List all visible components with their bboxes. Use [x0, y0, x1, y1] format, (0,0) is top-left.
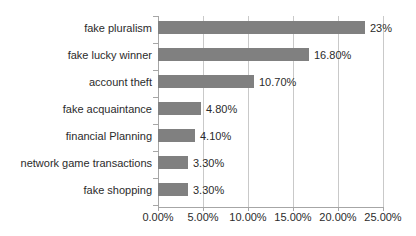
- bar-value-label: 4.80%: [206, 103, 237, 114]
- gridline-15: [293, 16, 294, 207]
- x-tick-label-25: 25.00%: [364, 212, 401, 223]
- bar-value-label: 23%: [370, 22, 392, 33]
- y-tick-mark: [153, 178, 158, 179]
- gridline-20: [338, 16, 339, 207]
- bar-financial-planning: [158, 129, 195, 142]
- y-tick-mark: [153, 205, 158, 206]
- y-tick-mark: [153, 43, 158, 44]
- gridline-25: [383, 16, 384, 207]
- x-tick-label-5: 5.00%: [187, 212, 218, 223]
- bar-value-label: 3.30%: [193, 157, 224, 168]
- y-tick-mark: [153, 16, 158, 17]
- category-label-fake-pluralism: fake pluralism: [0, 23, 152, 34]
- bar-value-label: 10.70%: [259, 76, 296, 87]
- category-label-account-theft: account theft: [0, 77, 152, 88]
- gridline-5: [203, 16, 204, 207]
- y-tick-mark: [153, 97, 158, 98]
- x-tick-label-15: 15.00%: [274, 212, 311, 223]
- bar-value-label: 4.10%: [200, 130, 231, 141]
- bar-fake-lucky-winner: [158, 48, 309, 61]
- bar-fake-shopping: [158, 183, 188, 196]
- bar-network-game-transactions: [158, 156, 188, 169]
- x-tick-label-20: 20.00%: [319, 212, 356, 223]
- bar-value-label: 3.30%: [193, 184, 224, 195]
- x-tick-label-10: 10.00%: [229, 212, 266, 223]
- y-tick-mark: [153, 70, 158, 71]
- bar-fake-acquaintance: [158, 102, 201, 115]
- bar-value-label: 16.80%: [314, 49, 351, 60]
- y-tick-mark: [153, 151, 158, 152]
- y-tick-mark: [153, 124, 158, 125]
- gridline-10: [248, 16, 249, 207]
- bar-account-theft: [158, 75, 254, 88]
- category-label-network-game-transactions: network game transactions: [0, 158, 152, 169]
- x-axis-line: [158, 207, 384, 208]
- category-label-fake-acquaintance: fake acquaintance: [0, 104, 152, 115]
- bar-fake-pluralism: [158, 21, 365, 34]
- plot-area: 23% 16.80% 10.70% 4.80% 4.10% 3.30% 3.30…: [158, 16, 383, 207]
- category-label-financial-planning: financial Planning: [0, 131, 152, 142]
- category-label-fake-lucky-winner: fake lucky winner: [0, 50, 152, 61]
- category-label-fake-shopping: fake shopping: [0, 185, 152, 196]
- x-tick-label-0: 0.00%: [142, 212, 173, 223]
- bar-chart: 23% 16.80% 10.70% 4.80% 4.10% 3.30% 3.30…: [0, 0, 416, 236]
